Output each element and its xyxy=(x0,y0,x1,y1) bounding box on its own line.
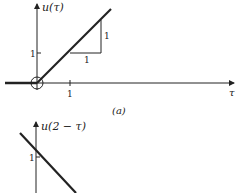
y-axis-label-b: u(2 − τ) xyxy=(41,120,86,133)
x-tick-label-a: 1 xyxy=(67,89,73,99)
caption-a: (a) xyxy=(112,105,126,116)
y-tick-label-b: 1 xyxy=(29,153,35,163)
x-axis-label-a: τ xyxy=(229,87,235,98)
y-tick-label-a: 1 xyxy=(30,49,36,59)
figure-b: u(2 − τ) 1 xyxy=(20,120,86,193)
ramp-line-a xyxy=(37,9,111,83)
diagram-canvas: u(τ) τ 1 1 1 1 (a) u(2 − τ) 1 xyxy=(0,0,236,193)
reflected-ramp-line-b xyxy=(20,133,76,193)
figure-a: u(τ) τ 1 1 1 1 (a) xyxy=(5,1,235,116)
slope-run-label: 1 xyxy=(84,55,90,65)
y-axis-label-a: u(τ) xyxy=(42,1,64,14)
slope-rise-label: 1 xyxy=(104,31,110,41)
